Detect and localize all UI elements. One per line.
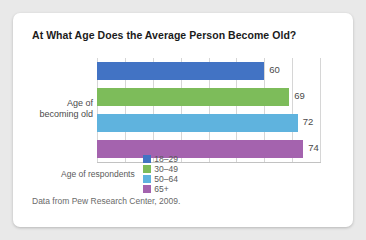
legend-label: 65+ xyxy=(154,184,168,194)
x-axis-line xyxy=(97,162,321,163)
bar-row: 69 xyxy=(97,84,320,110)
legend-item[interactable]: 65+ xyxy=(143,184,178,194)
y-axis-label-line-2: becoming old xyxy=(21,109,93,120)
chart-title: At What Age Does the Average Person Beco… xyxy=(32,29,296,41)
legend-items: 18–2930–4950–6465+ xyxy=(143,154,187,194)
bar xyxy=(97,88,289,106)
legend-item[interactable]: 30–49 xyxy=(143,164,178,174)
bar-value-label: 69 xyxy=(294,90,305,101)
bar-value-label: 72 xyxy=(303,116,314,127)
y-axis-label-line-1: Age of xyxy=(21,98,93,109)
legend-swatch xyxy=(143,185,151,193)
bar xyxy=(97,114,298,132)
plot-area: 60697274 xyxy=(97,58,320,162)
legend-swatch xyxy=(143,165,151,173)
legend-label: 30–49 xyxy=(154,164,178,174)
bar-row: 72 xyxy=(97,110,320,136)
bar-row: 60 xyxy=(97,58,320,84)
bar-value-label: 60 xyxy=(269,64,280,75)
bar xyxy=(97,62,264,80)
source-note: Data from Pew Research Center, 2009. xyxy=(32,196,180,206)
legend-title: Age of respondents xyxy=(61,169,135,179)
chart-legend: Age of respondents 18–2930–4950–6465+ xyxy=(61,168,187,180)
bar xyxy=(97,140,303,158)
bar-value-label: 74 xyxy=(308,142,319,153)
legend-item[interactable]: 50–64 xyxy=(143,174,178,184)
page-background: At What Age Does the Average Person Beco… xyxy=(0,0,366,240)
legend-label: 50–64 xyxy=(154,174,178,184)
y-axis-label: Age of becoming old xyxy=(21,98,93,119)
chart-card: At What Age Does the Average Person Beco… xyxy=(13,13,353,227)
gridline xyxy=(320,58,321,162)
legend-swatch xyxy=(143,155,151,163)
bar-row: 74 xyxy=(97,136,320,162)
legend-label: 18–29 xyxy=(154,154,178,164)
legend-item[interactable]: 18–29 xyxy=(143,154,178,164)
legend-swatch xyxy=(143,175,151,183)
